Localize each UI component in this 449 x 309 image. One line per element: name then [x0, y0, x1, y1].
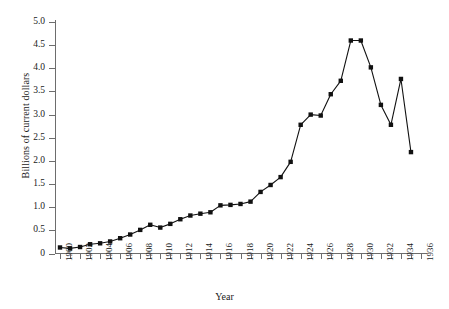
series-markers	[58, 38, 413, 250]
data-point	[218, 203, 222, 207]
series-line	[60, 41, 411, 249]
data-point	[308, 112, 312, 116]
x-axis-title: Year	[0, 291, 449, 302]
data-point	[98, 241, 102, 245]
data-point	[138, 228, 142, 232]
data-point	[208, 210, 212, 214]
data-point	[278, 175, 282, 179]
data-point	[339, 79, 343, 83]
data-point	[288, 160, 292, 164]
data-point	[349, 38, 353, 42]
data-point	[58, 245, 62, 249]
data-point	[409, 150, 413, 154]
data-point	[68, 246, 72, 250]
data-point	[148, 223, 152, 227]
data-point	[168, 222, 172, 226]
data-point	[389, 123, 393, 127]
data-point	[228, 203, 232, 207]
data-point	[198, 211, 202, 215]
data-point	[128, 232, 132, 236]
data-point	[178, 217, 182, 221]
data-point	[268, 183, 272, 187]
data-point	[248, 199, 252, 203]
data-point	[298, 123, 302, 127]
data-point	[188, 213, 192, 217]
data-point	[319, 113, 323, 117]
data-point	[88, 242, 92, 246]
data-point	[108, 239, 112, 243]
data-point	[258, 190, 262, 194]
data-series-layer	[0, 0, 449, 309]
data-point	[238, 202, 242, 206]
data-point	[158, 225, 162, 229]
data-point	[369, 65, 373, 69]
data-point	[379, 103, 383, 107]
data-point	[399, 77, 403, 81]
data-point	[118, 236, 122, 240]
data-point	[78, 245, 82, 249]
chart-figure: Billions of current dollars 5.04.54.03.5…	[0, 0, 449, 309]
data-point	[359, 38, 363, 42]
data-point	[329, 92, 333, 96]
